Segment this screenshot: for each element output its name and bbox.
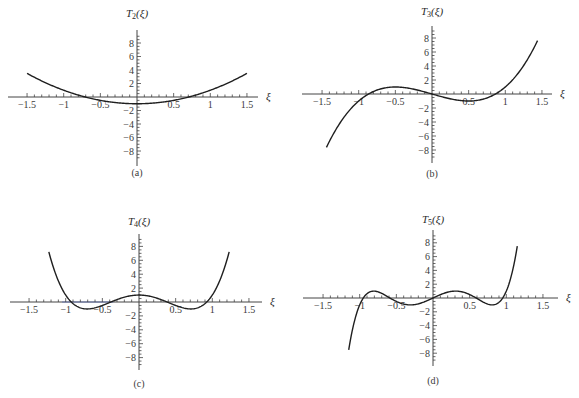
y-axis-title: T3(ξ) <box>421 5 443 19</box>
panel-caption: (c) <box>133 378 144 390</box>
x-tick-label: −1.5 <box>18 99 36 110</box>
y-tick-label: 6 <box>424 47 429 58</box>
y-tick-label: −6 <box>419 334 430 345</box>
x-tick-label: 1 <box>208 99 213 110</box>
y-tick-label: 6 <box>425 251 430 262</box>
y-axis-title: T4(ξ) <box>128 215 150 229</box>
y-tick-label: −6 <box>418 131 429 142</box>
panel-caption: (a) <box>131 167 142 179</box>
plot-panel-b: −1.5−1−0.50.511.5ξ8642−2−4−6−8T3(ξ)(b) <box>290 0 579 200</box>
x-tick-label: −1.5 <box>313 96 331 107</box>
chart-t3: −1.5−1−0.50.511.5ξ8642−2−4−6−8T3(ξ)(b) <box>290 0 579 200</box>
y-tick-label: −6 <box>125 338 136 349</box>
chart-t5: −1.5−1−0.50.511.5ξ8642−2−4−6−8T5(ξ)(d) <box>290 200 579 398</box>
y-axis-title: T2(ξ) <box>126 7 148 21</box>
y-axis: 8642−2−4−6−8T2(ξ) <box>123 7 148 166</box>
x-tick-label: 1.5 <box>536 96 549 107</box>
y-tick-label: −2 <box>419 306 430 317</box>
y-tick-label: −8 <box>125 352 136 363</box>
y-tick-label: −2 <box>125 310 136 321</box>
y-tick-label: 2 <box>424 75 429 86</box>
x-tick-label: −0.5 <box>386 96 404 107</box>
y-tick-label: −4 <box>125 324 136 335</box>
y-tick-label: 2 <box>131 283 136 294</box>
y-tick-label: −6 <box>123 132 134 143</box>
plot-panel-d: −1.5−1−0.50.511.5ξ8642−2−4−6−8T5(ξ)(d) <box>290 200 579 398</box>
x-tick-label: 1.5 <box>243 304 256 315</box>
panel-caption: (d) <box>427 375 439 387</box>
x-axis-title: ξ <box>266 90 271 103</box>
y-tick-label: 6 <box>131 255 136 266</box>
y-tick-label: 8 <box>424 33 429 44</box>
y-axis: 8642−2−4−6−8T4(ξ) <box>125 215 150 370</box>
x-tick-label: −1.5 <box>314 300 332 311</box>
y-axis: 8642−2−4−6−8T3(ξ) <box>418 5 443 163</box>
plot-panel-a: −1.5−1−0.50.511.5ξ8642−2−4−6−8T2(ξ)(a) <box>0 0 290 200</box>
x-tick-label: 1.5 <box>537 300 550 311</box>
y-tick-label: 4 <box>131 269 136 280</box>
x-axis: −1.5−1−0.50.511.5ξ <box>10 295 275 315</box>
y-tick-label: −8 <box>123 146 134 157</box>
y-axis-title: T5(ξ) <box>422 213 444 227</box>
chart-t2: −1.5−1−0.50.511.5ξ8642−2−4−6−8T2(ξ)(a) <box>0 0 290 200</box>
x-tick-label: −1 <box>58 99 69 110</box>
y-tick-label: 6 <box>129 51 134 62</box>
y-tick-label: −4 <box>123 119 134 130</box>
x-tick-label: 1 <box>504 300 509 311</box>
y-tick-label: 4 <box>424 61 429 72</box>
y-tick-label: −4 <box>418 117 429 128</box>
y-tick-label: −2 <box>418 103 429 114</box>
x-tick-label: 1.5 <box>241 99 254 110</box>
y-tick-label: −8 <box>418 145 429 156</box>
y-axis: 8642−2−4−6−8T5(ξ) <box>419 213 444 366</box>
panel-caption: (b) <box>426 168 438 180</box>
y-tick-label: −2 <box>123 105 134 116</box>
y-tick-label: 2 <box>129 78 134 89</box>
y-tick-label: 8 <box>129 38 134 49</box>
plot-panel-c: −1.5−1−0.50.511.5ξ8642−2−4−6−8T4(ξ)(c) <box>0 200 290 398</box>
x-axis-title: ξ <box>270 295 275 308</box>
y-tick-label: 2 <box>425 279 430 290</box>
y-tick-label: −8 <box>419 348 430 359</box>
y-tick-label: 4 <box>129 65 134 76</box>
y-tick-label: 8 <box>425 237 430 248</box>
y-tick-label: 8 <box>131 241 136 252</box>
x-axis-title: ξ <box>566 291 571 304</box>
x-tick-label: 1 <box>210 304 215 315</box>
x-tick-label: 1 <box>503 96 508 107</box>
x-tick-label: 0.5 <box>463 300 476 311</box>
chart-t4: −1.5−1−0.50.511.5ξ8642−2−4−6−8T4(ξ)(c) <box>0 200 290 398</box>
x-tick-label: −1.5 <box>20 304 38 315</box>
y-tick-label: −4 <box>419 320 430 331</box>
x-axis-title: ξ <box>560 87 565 100</box>
x-axis: −1.5−1−0.50.511.5ξ <box>303 291 571 311</box>
y-tick-label: 4 <box>425 265 430 276</box>
x-tick-label: −1 <box>60 304 71 315</box>
x-axis: −1.5−1−0.50.511.5ξ <box>302 87 565 107</box>
